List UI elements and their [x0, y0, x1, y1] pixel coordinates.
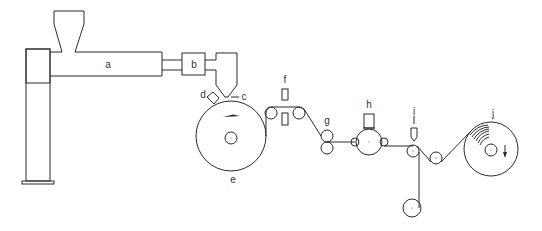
- rotation-arrow-icon: [223, 115, 240, 118]
- film-path-2: [299, 107, 321, 136]
- station-f: f: [265, 74, 305, 125]
- label-f: f: [284, 74, 287, 85]
- label-d: d: [200, 89, 206, 100]
- air-knife-d: d: [200, 89, 219, 104]
- wound-layers-hatching: [470, 125, 489, 145]
- label-j: j: [491, 108, 494, 119]
- knife-station-i: [407, 116, 419, 157]
- stand-base: [22, 181, 54, 184]
- film-path-1: [266, 107, 300, 136]
- label-e: e: [230, 174, 236, 185]
- label-c: c: [242, 91, 247, 102]
- stand-column: [26, 49, 50, 181]
- label-b: b: [191, 59, 197, 70]
- extruder-barrel-a: a: [50, 52, 162, 76]
- roll-station-h: h: [351, 99, 388, 155]
- label-g: g: [324, 115, 330, 126]
- label-a: a: [105, 59, 111, 70]
- winding-arrowhead-icon: [503, 152, 507, 158]
- connector-b-die: [205, 60, 216, 70]
- die-c: c: [216, 53, 247, 102]
- winder-j: j: [464, 108, 518, 176]
- connector-a-b: [162, 60, 182, 70]
- chill-roll-e: e: [196, 101, 266, 185]
- hopper: [54, 11, 84, 52]
- label-h: h: [366, 99, 372, 110]
- nip-rolls-g: g: [321, 115, 333, 154]
- label-i: i: [413, 106, 415, 117]
- process-diagram: a b c d e f g: [0, 0, 542, 231]
- component-b: b: [182, 53, 205, 75]
- extruder-stand: [22, 49, 54, 184]
